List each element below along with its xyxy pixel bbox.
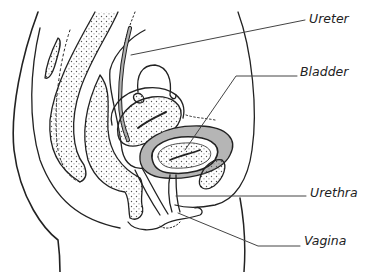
label-urethra: Urethra [310,186,358,200]
ureter-leader-line [131,20,305,55]
label-ureter: Ureter [309,12,349,26]
vagina-leader-line [178,213,300,246]
anatomy-diagram: Ureter Bladder Urethra Vagina [0,0,373,272]
label-bladder: Bladder [300,65,348,79]
female-pelvis-illustration [0,0,373,272]
label-vagina: Vagina [304,234,346,248]
